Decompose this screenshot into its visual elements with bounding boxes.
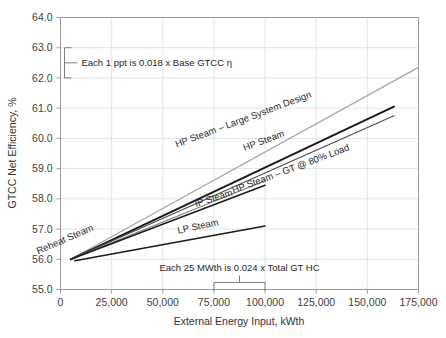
x-tick-label: 75,000 [198,296,230,308]
x-tick-label: 50,000 [147,296,179,308]
y-tick-label: 61.0 [32,102,53,114]
x-tick-label: 150,000 [348,296,386,308]
y-tick-label: 57.0 [32,223,53,235]
y-tick-label: 62.0 [32,72,53,84]
y-tick-label: 58.0 [32,192,53,204]
series-line [71,185,265,259]
y-tick-label: 64.0 [32,11,53,23]
series-label-hp-large: HP Steam – Large System Design [173,89,312,150]
y-tick-label: 63.0 [32,41,53,53]
x-axis-title: External Energy Input, kWth [174,315,305,327]
series-label-hp-steam: HP Steam [241,128,285,153]
x-tick-label: 25,000 [96,296,128,308]
y-tick-label: 59.0 [32,162,53,174]
x-tick-label: 125,000 [297,296,335,308]
y-tick-label: 56.0 [32,253,53,265]
x-tick-label: 175,000 [400,296,438,308]
chart-canvas: 55.056.057.058.059.060.061.062.063.064.0… [0,0,446,338]
series-labels: HP Steam – Large System DesignHP SteamHP… [35,89,351,256]
y-axis-title: GTCC Net Efficiency, % [6,97,18,208]
data-series [71,67,419,260]
annotation-mwth-annotation: Each 25 MWth is 0.024 x Total GT HC [159,262,319,273]
chart-container: 55.056.057.058.059.060.061.062.063.064.0… [0,0,446,338]
annotation-ppt-annotation: Each 1 ppt is 0.018 x Base GTCC η [82,57,233,68]
y-tick-label: 60.0 [32,132,53,144]
series-line [71,107,394,260]
x-tick-label: 100,000 [246,296,284,308]
series-label-lp-steam: LP Steam [176,216,219,235]
x-axis-ticks: 025,00050,00075,000100,000125,000150,000… [58,290,438,308]
y-tick-label: 55.0 [32,283,53,295]
x-tick-label: 0 [58,296,64,308]
